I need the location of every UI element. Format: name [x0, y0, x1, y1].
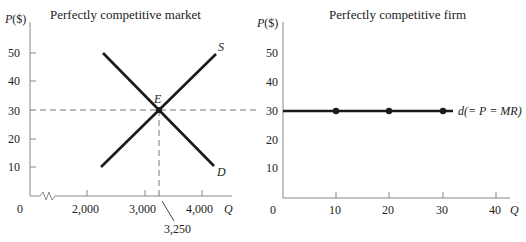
market-title: Perfectly competitive market — [50, 7, 201, 22]
y-tick-40: 40 — [8, 74, 20, 88]
x-tick-3000: 3,000 — [129, 202, 156, 216]
supply-label: S — [218, 40, 224, 54]
firm-point-q10 — [333, 108, 339, 114]
firm-origin-label: 0 — [270, 203, 276, 217]
firm-y-axis-label: P($) — [256, 16, 278, 30]
firm-title: Perfectly competitive firm — [329, 7, 466, 22]
firm-panel: Perfectly competitive firm P($) 50 40 30… — [256, 7, 522, 217]
firm-y-tick-30: 30 — [266, 104, 278, 118]
demand-label: D — [216, 165, 226, 179]
market-x-axis-label: Q — [224, 202, 233, 216]
firm-y-tick-20: 20 — [266, 133, 278, 147]
firm-x-tick-40: 40 — [489, 203, 501, 217]
y-tick-30: 30 — [8, 104, 20, 118]
firm-point-q30 — [440, 108, 446, 114]
origin-label: 0 — [17, 202, 23, 216]
chart-figure: Perfectly competitive market P($) 50 40 … — [0, 0, 526, 242]
firm-y-tick-40: 40 — [266, 75, 278, 89]
market-panel: Perfectly competitive market P($) 50 40 … — [4, 7, 256, 236]
y-tick-10: 10 — [8, 160, 20, 174]
x-tick-4000: 4,000 — [186, 202, 213, 216]
eq-quantity-leader-line — [162, 201, 174, 221]
y-unit: ($) — [264, 16, 278, 30]
equilibrium-point — [156, 107, 162, 113]
firm-point-q20 — [386, 108, 392, 114]
eq-quantity-label: 3,250 — [164, 222, 191, 236]
firm-x-tick-30: 30 — [436, 203, 448, 217]
firm-y-tick-50: 50 — [266, 46, 278, 60]
x-tick-2000: 2,000 — [72, 202, 99, 216]
y-tick-20: 20 — [8, 132, 20, 146]
firm-x-tick-10: 10 — [329, 203, 341, 217]
firm-x-tick-20: 20 — [382, 203, 394, 217]
firm-x-ticks: 0 10 20 30 40 Q — [270, 192, 519, 217]
firm-y-ticks: 50 40 30 20 10 — [266, 46, 278, 175]
market-y-axis-label: P($) — [4, 12, 26, 26]
firm-x-axis-label: Q — [510, 203, 519, 217]
firm-y-tick-10: 10 — [266, 161, 278, 175]
y-unit: ($) — [12, 12, 26, 26]
equilibrium-label: E — [153, 92, 162, 106]
y-tick-50: 50 — [8, 46, 20, 60]
firm-demand-label: d(= P = MR) — [458, 104, 522, 118]
